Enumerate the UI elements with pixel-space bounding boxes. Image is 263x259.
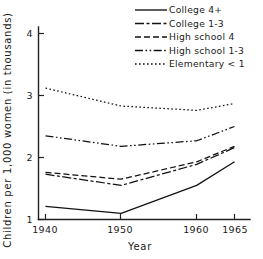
x-tick-label-1940: 1940 bbox=[32, 224, 58, 235]
y-axis-title: Children per 1,000 women (in thousands) bbox=[2, 12, 13, 247]
line-chart: 4 3 2 1 1940 1950 1960 1965 Year Childre… bbox=[0, 0, 263, 259]
x-tick-label-1960: 1960 bbox=[183, 224, 209, 235]
chart-legend: College 4+College 1-3High school 4High s… bbox=[135, 4, 245, 69]
y-tick-label-4: 4 bbox=[27, 28, 33, 39]
series-line-0 bbox=[46, 162, 235, 213]
y-tick-marks bbox=[39, 34, 45, 220]
series-line-3 bbox=[46, 127, 235, 147]
legend-label-0: College 4+ bbox=[169, 4, 222, 15]
x-axis-title: Year bbox=[127, 241, 152, 252]
series-group bbox=[46, 88, 235, 213]
legend-label-2: High school 4 bbox=[169, 31, 235, 42]
y-tick-label-3: 3 bbox=[27, 90, 33, 101]
legend-label-1: College 1-3 bbox=[169, 18, 224, 29]
series-line-4 bbox=[46, 88, 235, 110]
legend-label-4: Elementary < 1 bbox=[169, 58, 245, 69]
x-tick-label-1965: 1965 bbox=[222, 224, 248, 235]
chart-figure: 4 3 2 1 1940 1950 1960 1965 Year Childre… bbox=[0, 0, 263, 259]
series-line-2 bbox=[46, 146, 235, 179]
x-tick-label-1950: 1950 bbox=[107, 224, 133, 235]
legend-label-3: High school 1-3 bbox=[169, 45, 244, 56]
x-tick-marks bbox=[46, 214, 235, 220]
y-tick-label-2: 2 bbox=[27, 152, 33, 163]
